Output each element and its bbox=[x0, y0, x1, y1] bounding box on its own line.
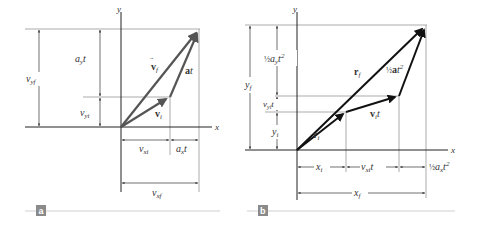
vector-ri bbox=[297, 114, 343, 150]
x-axis-label: x bbox=[450, 145, 455, 155]
label-half-at2: ½at2 bbox=[386, 63, 404, 75]
vector-at bbox=[170, 34, 197, 97]
figure-canvas: y x vf ⃗ vi at vyf ayt vyi vxi axt vxf bbox=[0, 0, 478, 230]
label-vi: vi bbox=[155, 108, 162, 121]
label-rf: rf bbox=[354, 66, 361, 79]
guide-lines bbox=[25, 29, 200, 192]
arrow-accent-vf: ⃗ bbox=[149, 57, 153, 60]
panel-b: y x rf ½at2 ri vit yf ½ayt2 vyit yi bbox=[244, 4, 455, 216]
dim-vxi: vxi bbox=[139, 143, 149, 156]
dim-axt: axt bbox=[176, 143, 187, 156]
label-at: at bbox=[185, 65, 193, 76]
panel-a: y x vf ⃗ vi at vyf ayt vyi vxi axt vxf bbox=[24, 4, 220, 216]
dim-half-axt2: ½axt2 bbox=[429, 160, 450, 174]
dimension-arrows-vertical bbox=[39, 30, 100, 126]
x-axis-label: x bbox=[214, 122, 219, 132]
label-vit: vit bbox=[370, 108, 380, 121]
y-axis-label: y bbox=[116, 4, 121, 14]
dim-vxf: vxf bbox=[152, 187, 163, 200]
dim-ayt: ayt bbox=[75, 53, 86, 66]
axes bbox=[25, 12, 212, 192]
dim-vyi: vyi bbox=[80, 107, 90, 120]
label-ri: ri bbox=[313, 129, 319, 142]
y-axis-label: y bbox=[292, 4, 297, 14]
panel-b-tag: b bbox=[260, 206, 266, 216]
label-vf: vf bbox=[151, 61, 159, 74]
